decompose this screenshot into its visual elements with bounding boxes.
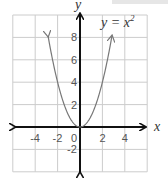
x-axis-label: x	[153, 119, 161, 134]
y-tick-label: 4	[71, 76, 77, 88]
x-tick-label: 2	[99, 132, 105, 144]
x-tick-label: 0	[71, 132, 77, 144]
y-tick-label: -2	[67, 143, 77, 155]
y-axis-label: y	[73, 0, 82, 12]
y-tick-label: 2	[71, 99, 77, 111]
equation-label: y = x2	[99, 13, 135, 30]
x-tick-label: -2	[53, 132, 63, 144]
x-tick-label: -4	[30, 132, 40, 144]
y-tick-label: 8	[71, 31, 77, 43]
x-tick-label: 4	[122, 132, 128, 144]
parabola-chart: -4-20248642-2 x y y = x2	[0, 0, 168, 178]
y-tick-label: 6	[71, 54, 77, 66]
